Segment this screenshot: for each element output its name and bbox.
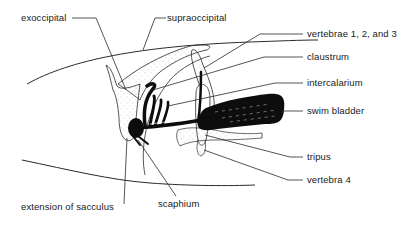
leader-extension-of-sacculus <box>124 138 127 204</box>
label-vertebrae-1-2-3: vertebrae 1, 2, and 3 <box>307 29 397 39</box>
label-exoccipital: exoccipital <box>21 13 66 23</box>
label-claustrum: claustrum <box>307 52 349 62</box>
label-extension-of-sacculus: extension of sacculus <box>21 202 114 212</box>
leader-exoccipital <box>72 18 126 90</box>
label-vertebra-4: vertebra 4 <box>307 175 351 185</box>
vertebral-centrum <box>177 128 262 146</box>
intercalarium-element <box>150 96 155 125</box>
leader-vertebra-4 <box>204 150 303 180</box>
label-swim-bladder: swim bladder <box>307 106 364 116</box>
label-supraoccipital: supraoccipital <box>167 13 227 23</box>
leader-supraoccipital <box>143 18 166 50</box>
label-intercalarium: intercalarium <box>307 78 363 88</box>
vertebra-4 <box>197 140 206 156</box>
body-outline-lower <box>22 160 255 186</box>
leader-vertebrae-123 <box>204 34 303 68</box>
label-scaphium: scaphium <box>158 199 199 209</box>
label-tripus: tripus <box>307 152 331 162</box>
